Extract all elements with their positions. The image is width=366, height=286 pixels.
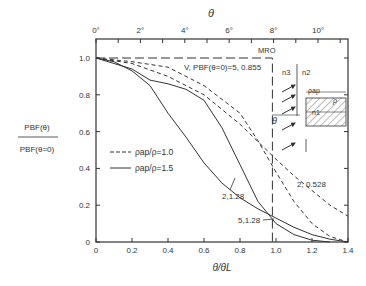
annotation-5-128: 5,1.28 [238, 216, 261, 225]
inset-label-n2: n2 [302, 68, 310, 77]
legend-label-solid: ρap/ρ=1.5 [135, 163, 174, 173]
annotation-v-label: V, PBF(θ=0)=5, 0.855 [184, 63, 262, 72]
top-tick-label: 2° [137, 26, 145, 35]
annotation-2-0528: 2, 0.528 [297, 180, 326, 189]
y-tick-label: 0.6 [79, 128, 91, 137]
annotation-2-128: 2,1.28 [222, 192, 245, 201]
x-tick-label: 0.8 [234, 246, 246, 255]
x-tick-label: 0 [94, 246, 99, 255]
y-axis-label-denominator: PBF(θ=0) [20, 145, 55, 154]
y-tick-label: 0.8 [79, 91, 91, 100]
inset-diagram: n3 n2 ρap ρ n1 θ [272, 64, 346, 152]
annotation-2-128-arrow [230, 178, 235, 190]
chart: 00.20.40.60.81.01.21.400.20.40.60.81.00°… [0, 0, 366, 286]
y-tick-label: 0 [86, 238, 91, 247]
inset-label-theta: θ [272, 116, 277, 126]
top-axis-label: θ [208, 7, 214, 19]
annotation-mro: MRO [258, 46, 276, 55]
x-tick-label: 0.6 [198, 246, 210, 255]
legend-label-dashed: ρap/ρ=1.0 [135, 147, 174, 157]
x-axis-label: θ/θL [212, 262, 231, 273]
x-tick-label: 0.4 [162, 246, 174, 255]
top-tick-label: 0° [92, 26, 100, 35]
series-line [96, 58, 272, 242]
x-tick-label: 0.2 [126, 246, 138, 255]
series-line [96, 58, 348, 242]
top-tick-label: 8° [270, 26, 278, 35]
x-tick-label: 1.0 [270, 246, 282, 255]
top-tick-label: 6° [225, 26, 233, 35]
y-tick-label: 0.2 [79, 201, 91, 210]
y-tick-label: 1.0 [79, 54, 91, 63]
x-tick-label: 1.4 [342, 246, 354, 255]
series [96, 58, 348, 242]
inset-label-n3: n3 [282, 68, 290, 77]
y-axis-label-numerator: PBF(θ) [24, 123, 50, 132]
top-tick-label: 4° [181, 26, 189, 35]
inset-label-rhoap: ρap [308, 87, 320, 95]
y-tick-label: 0.4 [79, 164, 91, 173]
x-tick-label: 1.2 [306, 246, 318, 255]
series-line [96, 58, 348, 242]
top-tick-label: 10° [312, 26, 324, 35]
